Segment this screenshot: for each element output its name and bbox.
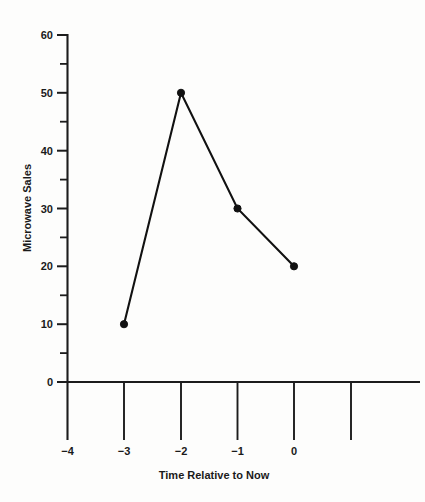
data-series-line (124, 93, 294, 324)
y-axis-title: Microwave Sales (21, 164, 33, 252)
data-point-marker[interactable] (177, 89, 184, 96)
x-tick-label--3: −3 (118, 445, 131, 457)
y-axis-major-ticks (57, 35, 67, 382)
y-axis-tick-labels: 60 50 40 30 20 10 0 (41, 29, 53, 388)
data-point-marker[interactable] (120, 321, 127, 328)
y-tick-label-40: 40 (41, 145, 53, 157)
line-chart: 60 50 40 30 20 10 0 −4 −3 −2 −1 0 (0, 0, 425, 502)
data-series-markers (120, 89, 297, 328)
data-point-marker[interactable] (290, 263, 297, 270)
x-axis-title: Time Relative to Now (159, 469, 270, 481)
x-tick-label-0: 0 (291, 445, 297, 457)
chart-page: 60 50 40 30 20 10 0 −4 −3 −2 −1 0 (0, 0, 425, 502)
y-tick-label-10: 10 (41, 318, 53, 330)
y-tick-label-0: 0 (47, 376, 53, 388)
x-tick-label--4: −4 (61, 445, 74, 457)
x-tick-label--2: −2 (175, 445, 188, 457)
x-axis-tick-labels: −4 −3 −2 −1 0 (61, 445, 297, 457)
y-tick-label-20: 20 (41, 260, 53, 272)
x-axis-ticks (124, 383, 351, 440)
x-tick-label--1: −1 (231, 445, 244, 457)
y-tick-label-50: 50 (41, 87, 53, 99)
data-point-marker[interactable] (234, 205, 241, 212)
y-tick-label-60: 60 (41, 29, 53, 41)
y-tick-label-30: 30 (41, 203, 53, 215)
